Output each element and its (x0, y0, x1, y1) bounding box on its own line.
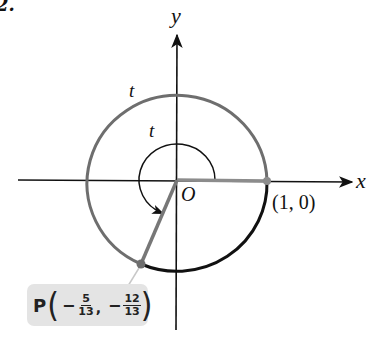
radius-terminal (141, 180, 177, 264)
y-axis-label: y (171, 5, 181, 27)
x-sign: − (62, 296, 75, 315)
outer-arc-label: t (129, 81, 134, 100)
x-axis-label: x (356, 170, 366, 192)
circle-remaining-arc (141, 181, 267, 271)
y-fraction: 12 13 (123, 293, 140, 317)
right-paren: ) (141, 288, 153, 323)
x-fraction: 5 13 (77, 293, 94, 317)
point-name: P (33, 295, 46, 316)
radius-start (177, 180, 267, 181)
coord-comma: , (96, 300, 101, 316)
terminal-point-label: P ( − 5 13 , − 12 13 ) (27, 284, 148, 326)
inner-arc-label: t (149, 121, 154, 140)
origin-label: O (181, 184, 195, 204)
terminal-point-dot (137, 260, 146, 269)
x-denominator: 13 (77, 306, 94, 318)
y-sign: − (108, 296, 121, 315)
left-paren: ( (47, 288, 59, 323)
start-point-label: (1, 0) (272, 192, 315, 212)
x-numerator: 5 (81, 293, 91, 306)
start-point-dot (263, 177, 271, 185)
y-numerator: 12 (123, 293, 140, 306)
y-denominator: 13 (123, 306, 140, 318)
